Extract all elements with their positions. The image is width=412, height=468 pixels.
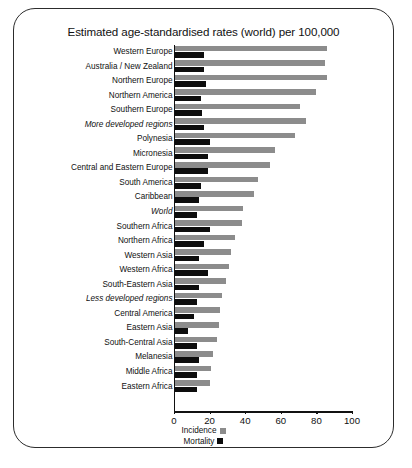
legend-swatch-incidence [220,428,226,434]
bar-group [174,365,352,380]
category-label: Caribbean [135,191,173,202]
legend-swatch-mortality [217,438,223,444]
bar-group [174,292,352,307]
chart-row: Western Africa [31,263,379,278]
bar-incidence [174,89,316,95]
bar-group [174,234,352,249]
chart-row: Central and Eastern Europe [31,161,379,176]
bar-group [174,147,352,162]
category-label: Northern America [109,90,173,101]
bar-mortality [174,125,204,131]
category-label: Micronesia [133,148,173,159]
bar-group [174,45,352,60]
x-axis-tick-label: 60 [275,415,286,426]
bar-group [174,263,352,278]
bar-group [174,278,352,293]
legend-label: Incidence [181,426,216,435]
bar-mortality [174,96,201,102]
chart-row: Northern America [31,89,379,104]
category-label: Western Africa [119,264,172,275]
bar-group [174,118,352,133]
bar-incidence [174,60,325,66]
chart-row: More developed regions [31,118,379,133]
bar-mortality [174,241,204,247]
x-axis-tick-label: 80 [311,415,322,426]
chart-row: Central America [31,307,379,322]
x-axis-tick [352,411,353,414]
chart-row: Western Europe [31,45,379,60]
bar-incidence [174,307,220,313]
category-label: South-Eastern Asia [102,279,172,290]
bar-incidence [174,322,219,328]
category-label: Melanesia [135,351,172,362]
chart-legend: IncidenceMortality [14,426,393,447]
chart-row: South America [31,176,379,191]
bar-mortality [174,52,204,58]
bar-group [174,190,352,205]
bar-mortality [174,343,197,349]
legend-item: Mortality [14,437,393,448]
category-label: Western Europe [113,46,172,57]
category-label: South America [119,177,172,188]
bar-mortality [174,81,206,87]
category-label: Eastern Africa [122,381,173,392]
bar-mortality [174,154,208,160]
bar-group [174,350,352,365]
bar-group [174,74,352,89]
bar-incidence [174,249,231,255]
category-label: Southern Africa [117,221,173,232]
bar-mortality [174,197,199,203]
bar-incidence [174,46,327,52]
chart-row: South-Eastern Asia [31,278,379,293]
chart-row: World [31,205,379,220]
bar-incidence [174,75,327,81]
bar-incidence [174,351,213,357]
chart-row: South-Central Asia [31,336,379,351]
bar-mortality [174,328,188,334]
bar-incidence [174,118,306,124]
bar-mortality [174,314,194,320]
bar-group [174,336,352,351]
chart-title: Estimated age-standardised rates (world)… [14,25,393,38]
x-axis-tick [316,411,317,414]
bar-incidence [174,104,300,110]
bar-incidence [174,206,243,212]
chart-row: Northern Africa [31,234,379,249]
bar-incidence [174,191,254,197]
bar-mortality [174,357,199,363]
bar-group [174,220,352,235]
bar-group [174,321,352,336]
chart-row: Australia / New Zealand [31,60,379,75]
plot-area: Western EuropeAustralia / New ZealandNor… [31,45,379,411]
bar-group [174,89,352,104]
category-label: Middle Africa [126,366,173,377]
bar-incidence [174,264,229,270]
x-axis-tick-label: 0 [171,415,176,426]
bar-group [174,249,352,264]
chart-row: Less developed regions [31,292,379,307]
bar-mortality [174,372,197,378]
legend-label: Mortality [184,437,215,446]
chart-row: Eastern Asia [31,321,379,336]
x-axis-line [174,411,352,413]
bar-group [174,205,352,220]
bar-group [174,60,352,75]
chart-row: Southern Africa [31,220,379,235]
bar-mortality [174,110,202,116]
category-label: Central and Eastern Europe [71,162,173,173]
category-label: South-Central Asia [104,337,172,348]
bar-incidence [174,278,226,284]
x-axis: 020406080100 [174,411,352,412]
bar-mortality [174,299,197,305]
bar-mortality [174,183,201,189]
bar-mortality [174,387,197,393]
chart-row: Micronesia [31,147,379,162]
x-axis-tick [281,411,282,414]
bar-incidence [174,366,211,372]
chart-row: Southern Europe [31,103,379,118]
axis-origin-line [174,45,175,412]
chart-frame: Estimated age-standardised rates (world)… [13,8,394,448]
chart-row: Polynesia [31,132,379,147]
chart-row: Northern Europe [31,74,379,89]
bar-incidence [174,380,210,386]
